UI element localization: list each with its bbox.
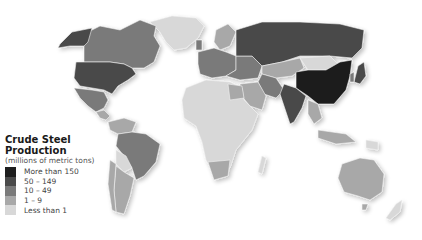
region-tasmania [362, 204, 368, 210]
legend-label: 50 – 149 [24, 177, 56, 186]
legend-item-50-149: 50 – 149 [5, 177, 135, 187]
region-madagascar [258, 156, 266, 174]
legend-item-10-49: 10 – 49 [5, 186, 135, 196]
region-japan [354, 62, 366, 84]
legend-label: More than 150 [24, 167, 79, 176]
legend-item-more-than-150: More than 150 [5, 167, 135, 177]
region-indonesia [318, 130, 356, 144]
region-egypt [228, 84, 244, 100]
region-central-america [96, 110, 110, 120]
legend-swatch [5, 167, 16, 177]
region-korea [350, 72, 354, 82]
region-scandinavia [214, 24, 236, 50]
legend-subtitle: (millions of metric tons) [5, 156, 135, 166]
legend-item-less-than-1: Less than 1 [5, 205, 135, 215]
region-new-zealand [386, 200, 402, 220]
legend-title-line2: Production [5, 145, 135, 156]
legend-swatch [5, 205, 16, 215]
legend-swatch [5, 186, 16, 196]
legend-label: 10 – 49 [24, 186, 52, 195]
legend-item-1-9: 1 – 9 [5, 196, 135, 206]
legend-swatch [5, 196, 16, 206]
region-canada [84, 20, 160, 68]
region-mexico [74, 88, 108, 112]
region-venezuela-colombia [108, 118, 136, 134]
region-australia [338, 158, 384, 200]
legend-label: 1 – 9 [24, 196, 42, 205]
legend-swatch [5, 177, 16, 187]
region-south-africa [208, 160, 230, 180]
map-legend: Crude Steel Production (millions of metr… [5, 134, 135, 215]
legend-label: Less than 1 [24, 206, 67, 215]
region-uk [196, 40, 202, 50]
legend-title-line1: Crude Steel [5, 134, 135, 145]
region-png [366, 140, 378, 150]
